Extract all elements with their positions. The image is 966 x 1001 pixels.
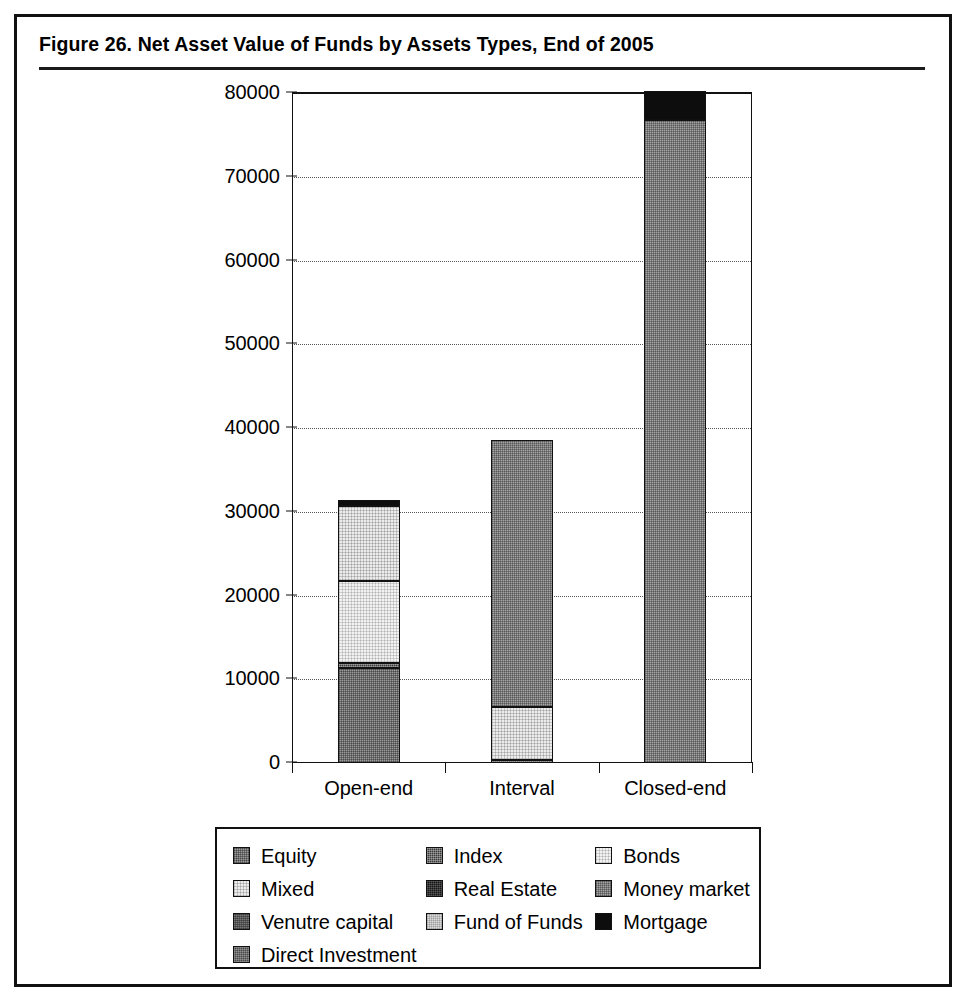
bar-closed-end [644,93,706,763]
legend-swatch-icon [426,880,443,897]
segment-mixed-open-end [338,506,400,581]
x-tick-mark-1 [445,762,446,773]
chart-legend: EquityIndexBondsMixedReal EstateMoney ma… [215,827,761,969]
x-category-label-closed-end: Closed-end [624,777,726,800]
legend-row: EquityIndexBonds [217,839,759,872]
x-tick-mark-0 [292,762,293,773]
y-tick-label-30000: 30000 [194,499,280,522]
legend-swatch-icon [595,880,612,897]
x-axis [292,762,752,763]
segment-bonds-open-end [338,581,400,663]
legend-item-venutre-capital[interactable]: Venutre capital [233,912,426,932]
y-tick-mark-70000 [286,175,297,176]
bar-open-end [338,93,400,763]
legend-label: Real Estate [454,879,557,899]
segment-mortgage-open-end [338,500,400,506]
legend-swatch-icon [595,847,612,864]
segment-equity-open-end [338,668,400,763]
legend-swatch-icon [233,946,250,963]
x-category-label-interval: Interval [489,777,555,800]
legend-label: Mixed [261,879,314,899]
legend-label: Venutre capital [261,912,393,932]
legend-swatch-icon [426,847,443,864]
segment-money_market-closed-end [644,120,706,763]
segment-mortgage-closed-end [644,91,706,120]
y-tick-label-60000: 60000 [194,248,280,271]
legend-swatch-icon [233,880,250,897]
legend-item-equity[interactable]: Equity [233,846,426,866]
y-tick-label-50000: 50000 [194,332,280,355]
legend-label: Bonds [623,846,680,866]
legend-label: Fund of Funds [454,912,583,932]
legend-item-real-estate[interactable]: Real Estate [426,879,596,899]
legend-swatch-icon [233,913,250,930]
x-category-label-open-end: Open-end [324,777,413,800]
legend-label: Money market [623,879,750,899]
legend-item-money-market[interactable]: Money market [595,879,759,899]
x-tick-mark-end [752,762,753,773]
y-tick-mark-40000 [286,427,297,428]
segment-money_market-interval [491,440,553,707]
legend-item-mortgage[interactable]: Mortgage [595,912,759,932]
y-tick-label-20000: 20000 [194,583,280,606]
y-tick-label-40000: 40000 [194,416,280,439]
legend-item-bonds[interactable]: Bonds [595,846,759,866]
y-tick-mark-50000 [286,343,297,344]
y-tick-label-10000: 10000 [194,667,280,690]
legend-swatch-icon [595,913,612,930]
figure-container: Figure 26. Net Asset Value of Funds by A… [14,14,952,987]
segment-index-open-end [338,663,400,668]
legend-swatch-icon [233,847,250,864]
legend-swatch-icon [426,913,443,930]
y-tick-mark-20000 [286,594,297,595]
y-tick-mark-30000 [286,510,297,511]
legend-label: Index [454,846,503,866]
y-tick-mark-60000 [286,259,297,260]
y-tick-mark-10000 [286,678,297,679]
bar-interval [491,93,553,763]
plot-area [292,92,752,762]
x-tick-mark-2 [599,762,600,773]
legend-item-index[interactable]: Index [426,846,596,866]
legend-row: Direct Investment [217,938,759,971]
y-tick-mark-80000 [286,92,297,93]
legend-row: MixedReal EstateMoney market [217,872,759,905]
y-tick-label-70000: 70000 [194,164,280,187]
legend-row: Venutre capitalFund of FundsMortgage [217,905,759,938]
y-tick-label-0: 0 [194,751,280,774]
legend-item-fund-of-funds[interactable]: Fund of Funds [426,912,596,932]
legend-label: Mortgage [623,912,708,932]
y-tick-label-80000: 80000 [194,81,280,104]
legend-item-direct-investment[interactable]: Direct Investment [233,945,433,965]
legend-label: Equity [261,846,317,866]
segment-mixed-interval [491,707,553,760]
legend-item-mixed[interactable]: Mixed [233,879,426,899]
legend-label: Direct Investment [261,945,417,965]
